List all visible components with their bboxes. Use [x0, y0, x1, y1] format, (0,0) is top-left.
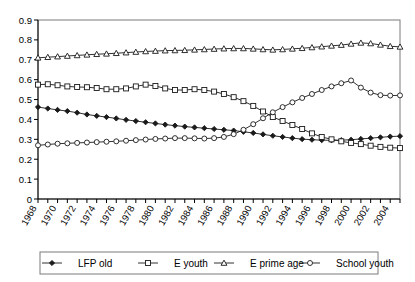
marker-filled-diamond [143, 120, 148, 125]
marker-open-square [163, 86, 168, 91]
marker-open-square [182, 88, 187, 93]
legend-label: School youth [336, 258, 394, 269]
marker-filled-diamond [133, 118, 138, 123]
x-tick-label: 1974 [77, 204, 97, 228]
marker-open-circle [300, 95, 305, 100]
x-tick-label: 1992 [253, 204, 273, 228]
marker-filled-diamond [192, 125, 197, 130]
marker-open-square [358, 142, 363, 147]
marker-open-circle [172, 136, 177, 141]
marker-open-circle [261, 116, 266, 121]
marker-filled-diamond [212, 126, 217, 131]
marker-open-square [261, 109, 266, 114]
marker-filled-diamond [251, 130, 256, 135]
marker-filled-diamond [221, 127, 226, 132]
legend-label: E youth [174, 258, 208, 269]
marker-open-circle [309, 91, 314, 96]
marker-open-circle [251, 122, 256, 127]
x-tick-label: 1972 [58, 204, 78, 228]
marker-open-square [104, 87, 109, 92]
marker-open-square [202, 88, 207, 93]
y-tick-label: 0.3 [19, 134, 32, 145]
marker-open-square [45, 82, 50, 87]
marker-open-circle [231, 132, 236, 137]
marker-filled-diamond [300, 137, 305, 142]
marker-filled-diamond [75, 110, 80, 115]
x-tick-label: 2000 [332, 204, 352, 228]
marker-open-square [55, 83, 60, 88]
marker-filled-diamond [55, 107, 60, 112]
marker-open-circle [133, 138, 138, 143]
marker-open-circle [388, 93, 393, 98]
marker-filled-diamond [368, 136, 373, 141]
x-tick-label: 1976 [97, 204, 117, 228]
series-line [38, 84, 400, 148]
marker-open-circle [308, 261, 313, 266]
marker-open-square [65, 84, 70, 89]
marker-open-square [300, 126, 305, 131]
x-tick-label: 1968 [19, 204, 39, 228]
y-tick-label: 0.6 [19, 74, 32, 85]
line-chart: 00.10.20.30.40.50.60.70.80.9196819701972… [0, 0, 415, 282]
series-e-prime-age [35, 40, 403, 60]
y-tick-label: 0.4 [19, 114, 32, 125]
marker-open-circle [349, 78, 354, 83]
series-line [38, 43, 400, 58]
marker-open-square [339, 139, 344, 144]
x-tick-label: 1980 [136, 204, 156, 228]
marker-open-square [84, 85, 89, 90]
marker-open-circle [36, 143, 41, 148]
x-tick-label: 1988 [214, 204, 234, 228]
marker-open-circle [221, 134, 226, 139]
marker-open-square [36, 82, 41, 87]
marker-open-square [172, 88, 177, 93]
marker-open-circle [270, 110, 275, 115]
marker-filled-diamond [388, 134, 393, 139]
marker-open-square [329, 137, 334, 142]
x-tick-label: 1978 [116, 204, 136, 228]
marker-filled-diamond [94, 113, 99, 118]
marker-open-square [251, 103, 256, 108]
marker-filled-diamond [65, 108, 70, 113]
chart-container: 00.10.20.30.40.50.60.70.80.9196819701972… [0, 0, 415, 282]
marker-open-circle [202, 136, 207, 141]
marker-open-circle [212, 136, 217, 141]
marker-open-square [94, 86, 99, 91]
marker-filled-diamond [397, 134, 402, 139]
marker-open-circle [339, 81, 344, 86]
marker-filled-diamond [309, 137, 314, 142]
marker-open-square [143, 82, 148, 87]
marker-open-circle [143, 137, 148, 142]
marker-open-square [124, 86, 129, 91]
marker-open-circle [153, 136, 158, 141]
marker-open-circle [290, 100, 295, 105]
marker-filled-diamond [182, 124, 187, 129]
marker-open-circle [163, 136, 168, 141]
marker-filled-diamond [153, 121, 158, 126]
marker-filled-diamond [114, 116, 119, 121]
marker-open-circle [65, 141, 70, 146]
marker-open-circle [358, 85, 363, 90]
marker-open-circle [329, 84, 334, 89]
marker-filled-diamond [280, 134, 285, 139]
marker-open-square [378, 144, 383, 149]
marker-open-circle [368, 90, 373, 95]
marker-open-circle [241, 127, 246, 132]
marker-filled-diamond [378, 135, 383, 140]
x-tick-label: 1984 [175, 204, 195, 228]
series-line [38, 107, 400, 140]
marker-filled-diamond [84, 112, 89, 117]
marker-open-circle [94, 140, 99, 145]
marker-open-square [398, 146, 403, 151]
x-tick-label: 1994 [273, 204, 293, 228]
marker-open-circle [319, 88, 324, 93]
y-tick-label: 0.7 [19, 54, 32, 65]
series-line [38, 80, 400, 145]
y-tick-label: 0.8 [19, 34, 32, 45]
x-tick-label: 1970 [38, 204, 58, 228]
x-tick-label: 1996 [293, 204, 313, 228]
marker-open-circle [192, 136, 197, 141]
marker-filled-diamond [270, 133, 275, 138]
legend-label: LFP old [78, 258, 112, 269]
marker-open-circle [45, 142, 50, 147]
